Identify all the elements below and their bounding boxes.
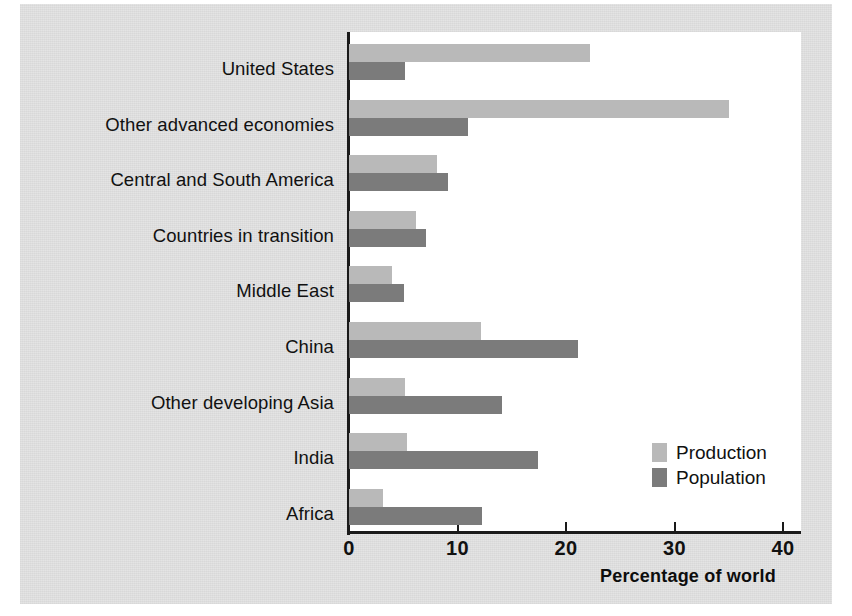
figure-page: 010203040 United StatesOther advanced ec… (0, 0, 852, 616)
bar-population-countries-in-transition (349, 229, 426, 247)
chart-legend: Production Population (652, 440, 792, 490)
bar-production-countries-in-transition (349, 211, 416, 229)
bar-population-united-states (349, 62, 405, 80)
x-axis-line (347, 531, 801, 534)
bar-production-other-advanced-economies (349, 100, 729, 118)
bar-production-other-developing-asia (349, 378, 405, 396)
x-tick-label-10: 10 (446, 537, 469, 560)
bar-production-united-states (349, 44, 590, 62)
category-label-central-and-south-america: Central and South America (110, 169, 334, 191)
bar-population-other-advanced-economies (349, 118, 468, 136)
bar-production-middle-east (349, 266, 392, 284)
category-label-india: India (293, 447, 334, 469)
category-label-other-developing-asia: Other developing Asia (151, 392, 334, 414)
x-tick-40 (782, 522, 784, 531)
category-label-middle-east: Middle East (236, 280, 334, 302)
bar-production-india (349, 433, 407, 451)
category-label-other-advanced-economies: Other advanced economies (105, 114, 334, 136)
bar-population-china (349, 340, 578, 358)
x-tick-30 (674, 522, 676, 531)
bar-chart: 010203040 United StatesOther advanced ec… (0, 0, 852, 616)
x-tick-20 (565, 522, 567, 531)
x-tick-label-30: 30 (663, 537, 686, 560)
bar-population-other-developing-asia (349, 396, 502, 414)
population-swatch-icon (652, 468, 667, 487)
bar-population-central-and-south-america (349, 173, 448, 191)
legend-label-population: Population (676, 467, 766, 489)
x-tick-label-40: 40 (772, 537, 795, 560)
bar-population-middle-east (349, 284, 404, 302)
category-label-china: China (285, 336, 334, 358)
bar-production-central-and-south-america (349, 155, 437, 173)
category-label-countries-in-transition: Countries in transition (153, 225, 334, 247)
x-tick-label-20: 20 (555, 537, 578, 560)
legend-label-production: Production (676, 442, 767, 464)
bar-production-china (349, 322, 481, 340)
category-label-united-states: United States (222, 58, 334, 80)
legend-item-production: Production (652, 440, 792, 465)
x-axis-title: Percentage of world (600, 566, 776, 587)
legend-item-population: Population (652, 465, 792, 490)
x-tick-label-0: 0 (343, 537, 354, 560)
bar-production-africa (349, 489, 383, 507)
production-swatch-icon (652, 443, 667, 462)
category-label-africa: Africa (286, 503, 334, 525)
bar-population-india (349, 451, 538, 469)
bar-population-africa (349, 507, 482, 525)
